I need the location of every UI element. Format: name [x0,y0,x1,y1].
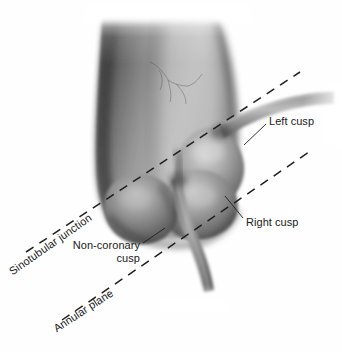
label-non-coronary-cusp: Non-coronarycusp [64,239,140,265]
aortic-root-drawing [0,0,342,352]
aortic-root-figure: Left cusp Right cusp Non-coronarycusp Si… [0,0,342,352]
label-non-coronary-cusp-line2: cusp [117,252,140,264]
aorta-top-cut [86,6,250,22]
label-non-coronary-cusp-line1: Non-coronary [73,239,140,251]
label-left-cusp: Left cusp [269,115,314,128]
label-right-cusp: Right cusp [246,216,298,229]
